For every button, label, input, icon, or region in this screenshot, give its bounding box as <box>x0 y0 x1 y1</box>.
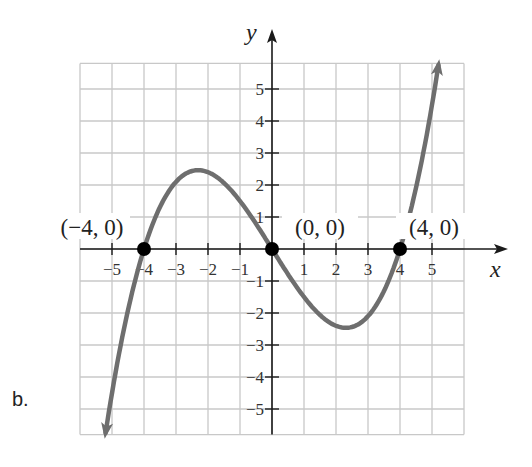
x-tick-label: −2 <box>199 260 217 279</box>
y-tick-label: −3 <box>246 336 264 355</box>
x-tick-label: 1 <box>300 260 309 279</box>
point-label: (−4, 0) <box>61 215 124 240</box>
y-axis-label: y <box>244 19 257 45</box>
x-tick-label: −3 <box>167 260 185 279</box>
x-tick-label: 5 <box>428 260 437 279</box>
x-axis-label: x <box>489 256 501 282</box>
x-tick-label: 3 <box>364 260 373 279</box>
axis-labels: xy <box>244 19 501 282</box>
y-tick-label: −1 <box>246 272 264 291</box>
intercept-point <box>393 242 407 256</box>
intercept-point <box>265 242 279 256</box>
cubic-function-graph: −5−4−3−2−112345−5−4−3−2−112345 (−4, 0)(0… <box>0 0 532 467</box>
point-label: (4, 0) <box>409 215 459 240</box>
y-tick-label: −2 <box>246 304 264 323</box>
x-tick-label: 2 <box>332 260 341 279</box>
y-tick-label: 3 <box>256 144 265 163</box>
intercept-point <box>137 242 151 256</box>
point-label: (0, 0) <box>295 215 345 240</box>
y-tick-label: −5 <box>246 400 264 419</box>
x-tick-label: −5 <box>103 260 121 279</box>
y-tick-label: 4 <box>256 112 265 131</box>
y-tick-label: −4 <box>246 368 265 387</box>
y-tick-label: 2 <box>256 176 265 195</box>
y-tick-label: 5 <box>256 80 265 99</box>
